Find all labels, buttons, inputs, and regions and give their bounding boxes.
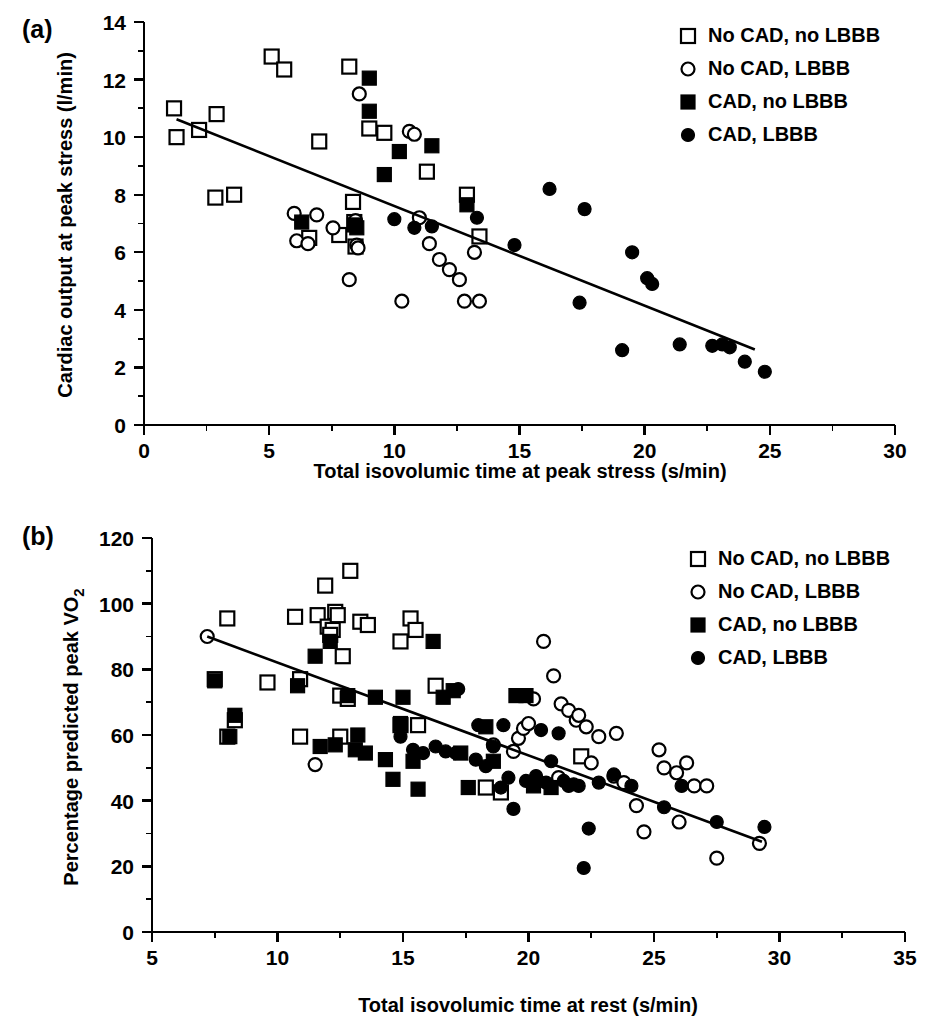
x-tick-label: 15 (508, 439, 532, 462)
data-point-filled-square (425, 139, 439, 153)
data-point-filled-circle (682, 129, 695, 142)
data-point-filled-circle (673, 338, 686, 351)
data-point-filled-circle (577, 861, 590, 874)
data-point-filled-circle (497, 719, 510, 732)
data-point-filled-circle (507, 802, 520, 815)
data-point-filled-circle (552, 727, 565, 740)
data-point-open-square (167, 101, 181, 115)
panel-a-regression-line (177, 119, 755, 349)
data-point-filled-square (392, 145, 406, 159)
data-point-filled-circle (758, 365, 771, 378)
panel-a-y-axis-title: Cardiac output at peak stress (l/min) (54, 52, 76, 398)
data-point-filled-circle (449, 747, 462, 760)
data-point-open-square (393, 634, 407, 648)
data-point-open-circle (700, 779, 713, 792)
legend-item: No CAD, no LBBB (691, 547, 890, 569)
data-point-open-circle (443, 263, 456, 276)
data-point-open-square (293, 730, 307, 744)
panel-a-axes (134, 22, 895, 435)
data-point-open-circle (710, 852, 723, 865)
data-point-open-circle (670, 766, 683, 779)
data-point-open-circle (537, 635, 550, 648)
x-tick-label: 15 (391, 946, 415, 969)
data-point-filled-square (460, 198, 474, 212)
legend-label: No CAD, LBBB (718, 580, 860, 602)
data-point-filled-square (411, 782, 425, 796)
data-point-open-square (336, 649, 350, 663)
y-tick-label: 100 (99, 593, 134, 616)
data-point-filled-circle (388, 213, 401, 226)
data-point-filled-square (328, 738, 342, 752)
data-point-open-circle (433, 253, 446, 266)
panel-b-tag: (b) (22, 522, 54, 550)
legend-item: No CAD, LBBB (682, 57, 851, 79)
panel-a-x-axis-title: Total isovolumic time at peak stress (s/… (313, 460, 726, 482)
data-point-filled-circle (578, 203, 591, 216)
legend-item: CAD, no LBBB (681, 90, 848, 112)
data-point-open-circle (423, 237, 436, 250)
data-point-open-circle (682, 63, 695, 76)
data-point-open-square (361, 618, 375, 632)
data-point-filled-square (396, 690, 410, 704)
data-point-filled-square (362, 104, 376, 118)
data-point-filled-square (291, 679, 305, 693)
data-point-filled-square (350, 221, 364, 235)
data-point-open-square (377, 126, 391, 140)
legend-label: No CAD, LBBB (708, 57, 850, 79)
legend-item: CAD, no LBBB (691, 613, 858, 635)
y-tick-label: 8 (114, 184, 126, 207)
data-point-open-circle (522, 717, 535, 730)
legend-label: CAD, no LBBB (708, 90, 848, 112)
data-point-open-circle (395, 295, 408, 308)
panel-b-x-axis-title: Total isovolumic time at rest (s/min) (358, 994, 698, 1016)
legend-item: No CAD, LBBB (692, 580, 861, 602)
series-open-circle (288, 87, 486, 307)
legend-label: No CAD, no LBBB (718, 547, 890, 569)
data-point-filled-square (519, 689, 533, 703)
data-point-filled-square (228, 708, 242, 722)
data-point-open-circle (458, 295, 471, 308)
panel-b-regression-line (207, 637, 762, 842)
data-point-filled-circle (582, 822, 595, 835)
data-point-filled-circle (535, 724, 548, 737)
data-point-open-square (210, 107, 224, 121)
data-point-open-square (681, 29, 695, 43)
data-point-filled-circle (572, 779, 585, 792)
legend-item: CAD, LBBB (692, 646, 829, 668)
x-tick-label: 20 (633, 439, 656, 462)
data-point-filled-circle (646, 277, 659, 290)
data-point-filled-circle (452, 683, 465, 696)
y-tick-label: 60 (111, 724, 134, 747)
data-point-filled-circle (543, 182, 556, 195)
data-point-filled-square (313, 739, 327, 753)
data-point-filled-circle (479, 760, 492, 773)
data-point-open-circle (408, 128, 421, 141)
y-tick-label: 40 (111, 790, 134, 813)
legend-label: No CAD, no LBBB (708, 24, 880, 46)
data-point-open-square (362, 122, 376, 136)
x-tick-label: 35 (893, 946, 917, 969)
y-tick-label: 0 (114, 414, 126, 437)
x-tick-label: 0 (138, 439, 150, 462)
data-point-open-square (277, 62, 291, 76)
panel-a-legend: No CAD, no LBBBNo CAD, LBBBCAD, no LBBBC… (681, 24, 880, 145)
data-point-open-circle (658, 761, 671, 774)
data-point-open-square (346, 195, 360, 209)
data-point-open-circle (673, 816, 686, 829)
y-tick-label: 20 (111, 855, 134, 878)
y-tick-label: 0 (122, 921, 134, 944)
data-point-filled-square (378, 753, 392, 767)
x-tick-label: 25 (758, 439, 782, 462)
legend-label: CAD, LBBB (718, 646, 828, 668)
data-point-filled-square (208, 674, 222, 688)
data-point-filled-circle (616, 344, 629, 357)
data-point-open-square (420, 165, 434, 179)
x-tick-label: 25 (642, 946, 666, 969)
x-tick-label: 5 (146, 946, 158, 969)
y-tick-label: 80 (111, 658, 134, 681)
data-point-open-circle (592, 730, 605, 743)
data-point-open-square (208, 191, 222, 205)
data-point-open-circle (610, 727, 623, 740)
data-point-open-square (331, 608, 345, 622)
data-point-open-circle (688, 779, 701, 792)
